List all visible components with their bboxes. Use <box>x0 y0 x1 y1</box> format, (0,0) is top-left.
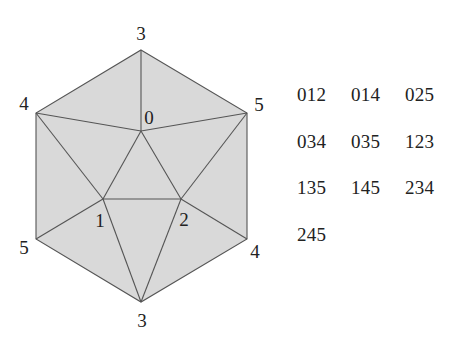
vertex-label-top: 3 <box>136 23 146 44</box>
triangle-label: 025 <box>405 84 457 131</box>
vertex-label-center-top: 0 <box>144 107 154 128</box>
triangle-label: 035 <box>351 131 405 178</box>
vertex-label-center-right: 2 <box>179 209 189 230</box>
triangle-list: 012 014 025 034 035 123 135 145 234 245 <box>297 84 457 270</box>
triangle-label: 014 <box>351 84 405 131</box>
triangle-label: 245 <box>297 224 351 271</box>
triangle-label: 145 <box>351 177 405 224</box>
vertex-label-lower-right: 4 <box>250 241 260 262</box>
triangle-label: 012 <box>297 84 351 131</box>
triangle-label: 123 <box>405 131 457 178</box>
vertex-label-center-left: 1 <box>95 210 105 231</box>
triangle-label: 135 <box>297 177 351 224</box>
triangle-label: 234 <box>405 177 457 224</box>
vertex-label-bottom: 3 <box>137 310 147 331</box>
triangle-label: 034 <box>297 131 351 178</box>
vertex-label-upper-left: 4 <box>19 93 29 114</box>
vertex-label-lower-left: 5 <box>19 237 29 258</box>
vertex-label-upper-right: 5 <box>254 94 264 115</box>
